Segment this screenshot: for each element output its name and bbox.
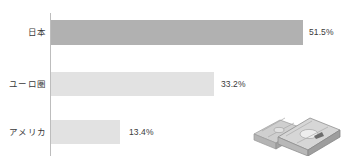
- bar-0[interactable]: [51, 20, 303, 45]
- bar-chart-figure: 日本 51.5% ユーロ圏 33.2% アメリカ 13.4%: [0, 0, 345, 161]
- bar-value-label-0: 51.5%: [309, 28, 334, 37]
- bar-1[interactable]: [51, 72, 214, 96]
- bar-value-label-2: 13.4%: [129, 128, 154, 137]
- bar-category-label-0: 日本: [28, 28, 46, 37]
- bar-value-label-1: 33.2%: [221, 80, 246, 89]
- table-row: ユーロ圏 33.2%: [0, 71, 345, 97]
- table-row: 日本 51.5%: [0, 19, 345, 45]
- bar-category-label-1: ユーロ圏: [9, 80, 46, 89]
- banknote-bundles-icon: [252, 106, 344, 156]
- bar-category-label-2: アメリカ: [9, 128, 46, 137]
- bar-2[interactable]: [51, 120, 120, 144]
